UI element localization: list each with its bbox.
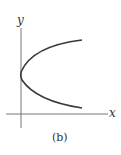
x-axis-label: x <box>109 106 116 120</box>
plot-canvas: y x (b) <box>0 0 121 155</box>
parabola-curve <box>21 40 82 108</box>
figure-caption: (b) <box>52 131 68 144</box>
diagram-figure: y x (b) <box>0 0 121 155</box>
y-axis-label: y <box>16 13 24 27</box>
